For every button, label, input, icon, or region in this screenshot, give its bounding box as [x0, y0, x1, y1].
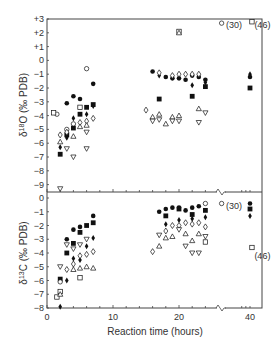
oxygen-isotope-panel: +3+2+10−1−2−3−4−5−6−7−8−9(30)(46) [34, 14, 271, 191]
carbon-isotope-panel: 0−1−2−3−4−5−6−7−8(30)(46) [34, 193, 271, 313]
y-tick-label: +3 [34, 14, 44, 24]
filled-circle-marker-icon [71, 227, 76, 232]
y-tick-label: −5 [34, 124, 44, 134]
outer-frame [47, 19, 262, 308]
filled-circle-marker-icon [164, 75, 169, 80]
open-triangle-up-marker-icon [71, 267, 76, 272]
y-tick-label: −6 [34, 276, 44, 286]
open-triangle-up-marker-icon [196, 231, 201, 236]
filled-diamond-marker-icon [190, 82, 194, 88]
filled-circle-marker-icon [183, 77, 188, 82]
y-tick-label: −1 [34, 69, 44, 79]
open-triangle-down-marker-icon [84, 130, 89, 135]
filled-circle-marker-icon [248, 201, 253, 206]
open-square-marker-icon [250, 245, 254, 249]
open-diamond-marker-icon [58, 132, 62, 138]
open-diamond-marker-icon [78, 253, 82, 259]
open-triangle-down-marker-icon [71, 155, 76, 160]
open-triangle-up-marker-icon [157, 244, 162, 249]
filled-circle-marker-icon [164, 207, 169, 212]
open-square-marker-icon [78, 105, 82, 109]
filled-square-marker-icon [64, 251, 69, 256]
y-tick-label: 0 [39, 55, 44, 65]
x-tick-label: 10 [108, 312, 118, 322]
open-triangle-down-marker-icon [84, 237, 89, 242]
filled-square-marker-icon [248, 207, 253, 212]
open-triangle-up-marker-icon [163, 121, 168, 126]
y-axis-title-oxygen: δ18O (‰ PDB) [18, 73, 30, 137]
x-axis-title: Reaction time (hours) [107, 326, 203, 337]
open-triangle-down-marker-icon [58, 265, 63, 270]
y-tick-label: −1 [34, 207, 44, 217]
open-circle-marker-icon [219, 201, 223, 205]
y-axis-title-carbon: δ13C (‰ PDB) [18, 221, 30, 284]
filled-circle-marker-icon [170, 205, 175, 210]
open-triangle-up-marker-icon [77, 266, 82, 271]
filled-circle-marker-icon [65, 237, 70, 242]
open-triangle-up-marker-icon [176, 113, 181, 118]
open-triangle-down-marker-icon [77, 243, 82, 248]
open-diamond-marker-icon [190, 221, 194, 227]
y-tick-label: −4 [34, 111, 44, 121]
open-triangle-down-marker-icon [64, 147, 69, 152]
open-circle-marker-icon [84, 66, 88, 70]
open-triangle-down-marker-icon [170, 119, 175, 124]
open-triangle-down-marker-icon [64, 243, 69, 248]
y-tick-label: −3 [34, 234, 44, 244]
filled-diamond-marker-icon [91, 235, 95, 241]
filled-diamond-marker-icon [65, 278, 69, 284]
point-annotation: (46) [254, 20, 270, 30]
filled-square-marker-icon [78, 230, 83, 235]
y-tick-label: −4 [34, 248, 44, 258]
open-triangle-down-marker-icon [190, 251, 195, 256]
filled-circle-marker-icon [190, 205, 195, 210]
x-tick-label: 20 [174, 312, 184, 322]
filled-square-marker-icon [78, 112, 83, 117]
open-triangle-up-marker-icon [196, 106, 201, 111]
open-diamond-marker-icon [71, 261, 75, 267]
y-tick-label: +2 [34, 28, 44, 38]
open-triangle-up-marker-icon [71, 134, 76, 139]
y-tick-label: −6 [34, 138, 44, 148]
open-triangle-down-marker-icon [84, 147, 89, 152]
open-triangle-down-marker-icon [71, 247, 76, 252]
filled-square-marker-icon [203, 208, 208, 213]
filled-circle-marker-icon [91, 214, 96, 219]
open-diamond-marker-icon [197, 220, 201, 226]
filled-square-marker-icon [190, 94, 195, 99]
filled-circle-marker-icon [197, 204, 202, 209]
filled-diamond-marker-icon [85, 111, 89, 117]
open-square-marker-icon [78, 276, 82, 280]
filled-diamond-marker-icon [58, 144, 62, 150]
open-triangle-down-marker-icon [183, 244, 188, 249]
filled-circle-marker-icon [71, 94, 76, 99]
open-triangle-up-marker-icon [84, 123, 89, 128]
filled-square-marker-icon [248, 86, 253, 91]
filled-diamond-marker-icon [204, 214, 208, 220]
filled-circle-marker-icon [183, 208, 188, 213]
open-diamond-marker-icon [184, 71, 188, 77]
open-triangle-up-marker-icon [150, 114, 155, 119]
open-diamond-marker-icon [91, 249, 95, 255]
open-triangle-down-marker-icon [176, 228, 181, 233]
open-diamond-marker-icon [144, 107, 148, 113]
filled-square-marker-icon [157, 97, 162, 102]
y-tick-label: −7 [34, 289, 44, 299]
filled-square-marker-icon [58, 152, 63, 157]
open-circle-marker-icon [71, 122, 75, 126]
filled-square-marker-icon [71, 241, 76, 246]
y-tick-label: −2 [34, 221, 44, 231]
filled-square-marker-icon [84, 223, 89, 228]
open-diamond-marker-icon [203, 224, 207, 230]
y-tick-label: −9 [34, 180, 44, 190]
filled-diamond-marker-icon [72, 115, 76, 121]
open-triangle-down-marker-icon [157, 233, 162, 238]
x-tick-label: 40 [245, 312, 255, 322]
open-triangle-up-marker-icon [84, 264, 89, 269]
point-annotation: (30) [226, 20, 242, 30]
filled-diamond-marker-icon [85, 243, 89, 249]
y-tick-label: +1 [34, 42, 44, 52]
filled-diamond-marker-icon [164, 221, 168, 227]
y-tick-label: −5 [34, 262, 44, 272]
open-triangle-down-marker-icon [203, 111, 208, 116]
